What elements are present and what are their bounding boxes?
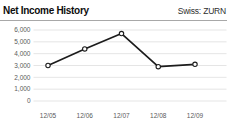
data-point-12/07 — [119, 32, 123, 36]
data-point-12/09 — [193, 62, 197, 66]
y-tick-label: 4,000 — [14, 50, 31, 57]
chart-header: Net Income History Swiss: ZURN — [0, 0, 229, 16]
chart-title: Net Income History — [3, 5, 89, 16]
y-tick-label: 3,000 — [14, 62, 31, 69]
data-point-12/08 — [156, 65, 160, 69]
y-tick-label: 0 — [27, 98, 31, 105]
y-tick-label: 1,000 — [14, 86, 31, 93]
net-income-line-chart: 01,0002,0003,0004,0005,0006,00012/0512/0… — [0, 21, 229, 125]
x-tick-label: 12/07 — [113, 112, 130, 119]
y-tick-label: 6,000 — [14, 27, 31, 34]
x-tick-label: 12/08 — [150, 112, 167, 119]
y-tick-label: 5,000 — [14, 38, 31, 45]
data-point-12/05 — [46, 64, 50, 68]
x-tick-label: 12/05 — [40, 112, 57, 119]
data-point-12/06 — [83, 47, 87, 51]
x-tick-label: 12/06 — [77, 112, 94, 119]
net-income-card: Net Income History Swiss: ZURN 01,0002,0… — [0, 0, 229, 126]
ticker-label: Swiss: ZURN — [178, 7, 226, 16]
x-tick-label: 12/09 — [187, 112, 204, 119]
series-line — [48, 34, 195, 67]
y-tick-label: 2,000 — [14, 74, 31, 81]
